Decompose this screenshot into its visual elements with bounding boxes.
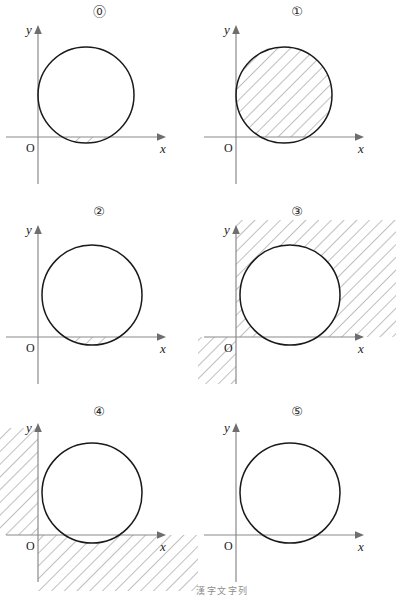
y-axis-label: y bbox=[24, 222, 32, 237]
y-axis-label: y bbox=[222, 22, 230, 37]
circle bbox=[42, 443, 142, 543]
x-axis-arrow bbox=[157, 333, 166, 340]
panel-4-figure: y x O bbox=[0, 400, 198, 594]
x-axis-label: x bbox=[159, 141, 166, 156]
shaded-region-circle-above-x-axis bbox=[198, 0, 396, 137]
shaded-regions-outside-circle bbox=[198, 220, 396, 384]
shaded-region-quadrant-II bbox=[0, 428, 38, 535]
x-axis-arrow bbox=[355, 133, 364, 140]
origin-label: O bbox=[26, 141, 35, 155]
axes bbox=[6, 230, 160, 384]
origin-label: O bbox=[224, 141, 233, 155]
y-axis-label: y bbox=[24, 420, 32, 435]
shaded-region-quadrant-IV bbox=[38, 535, 198, 591]
x-axis-label: x bbox=[159, 539, 166, 554]
footnote-text: 漢字文字列 bbox=[196, 586, 396, 597]
y-axis-arrow bbox=[232, 25, 240, 34]
circle bbox=[240, 443, 340, 543]
panel-0: ⓪ y x O bbox=[0, 0, 198, 200]
y-axis-arrow bbox=[34, 225, 42, 234]
y-axis-label: y bbox=[222, 222, 230, 237]
panel-4: ④ y x O bbox=[0, 400, 198, 594]
panel-3: ③ y x O bbox=[198, 200, 396, 400]
panel-1-figure: y x O bbox=[198, 0, 396, 200]
origin-label: O bbox=[26, 539, 35, 553]
origin-label: O bbox=[224, 539, 233, 553]
shaded-region-left-lune bbox=[198, 400, 236, 535]
x-axis-label: x bbox=[357, 141, 364, 156]
panel-1: ① y x O bbox=[198, 0, 396, 200]
panel-5: ⑤ y x O bbox=[198, 400, 396, 594]
origin-label: O bbox=[224, 341, 233, 355]
panel-2: ② y bbox=[0, 200, 198, 400]
axes bbox=[6, 30, 160, 184]
circle bbox=[38, 47, 134, 143]
shaded-region-left-lune bbox=[0, 200, 38, 337]
x-axis-arrow bbox=[355, 531, 364, 538]
panel-2-figure: y x O bbox=[0, 200, 198, 400]
y-axis-label: y bbox=[222, 420, 230, 435]
panel-5-figure: y x O bbox=[198, 400, 396, 594]
x-axis-label: x bbox=[357, 341, 364, 356]
x-axis-arrow bbox=[157, 133, 166, 140]
shaded-region-quadrant-I bbox=[236, 220, 396, 337]
circle bbox=[42, 245, 142, 345]
panel-3-figure: y x O bbox=[198, 200, 396, 400]
y-axis-arrow bbox=[34, 423, 42, 432]
y-axis-arrow bbox=[232, 423, 240, 432]
axes bbox=[204, 428, 358, 582]
panel-0-figure: y x O bbox=[0, 0, 198, 200]
y-axis-label: y bbox=[24, 22, 32, 37]
y-axis-arrow bbox=[34, 25, 42, 34]
x-axis-label: x bbox=[159, 341, 166, 356]
x-axis-label: x bbox=[357, 539, 364, 554]
shaded-regions-outside-circle bbox=[0, 428, 198, 591]
origin-label: O bbox=[26, 341, 35, 355]
